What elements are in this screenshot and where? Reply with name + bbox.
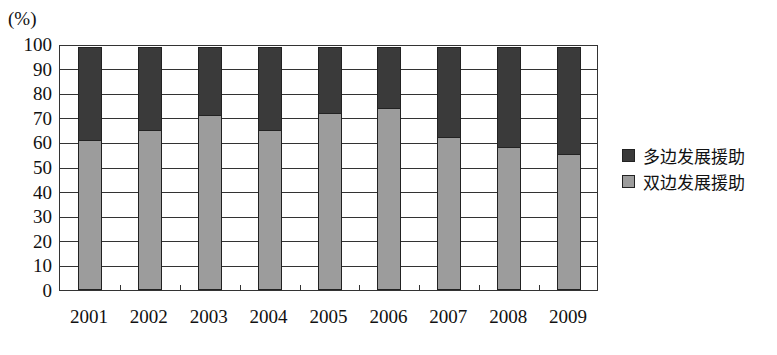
bar-segment-bilateral [139,130,161,289]
bar-2003 [198,47,222,290]
bar-2002 [138,47,162,290]
y-tick-label: 100 [0,35,52,55]
legend-item-multilateral: 多边发展援助 [622,142,745,168]
y-tick-label: 90 [0,60,52,80]
x-tick-mark [419,285,420,290]
legend: 多边发展援助 双边发展援助 [622,142,745,194]
x-tick-label: 2009 [538,306,598,328]
bar-segment-bilateral [378,108,400,289]
bar-segment-bilateral [259,130,281,289]
bar-2004 [258,47,282,290]
bar-segment-multilateral [498,48,520,147]
bar-segment-multilateral [319,48,341,113]
x-tick-label: 2006 [358,306,418,328]
x-tick-mark [539,285,540,290]
bar-segment-multilateral [378,48,400,108]
y-tick-label: 30 [0,207,52,227]
bar-2009 [557,47,581,290]
bar-segment-bilateral [319,113,341,289]
x-tick-label: 2004 [239,306,299,328]
stacked-bar-chart: (%) 0102030405060708090100 2001200220032… [0,0,777,355]
bar-segment-multilateral [438,48,460,137]
x-tick-mark [359,285,360,290]
y-tick-label: 80 [0,84,52,104]
bar-2007 [437,47,461,290]
bar-segment-multilateral [139,48,161,130]
x-tick-mark [300,285,301,290]
y-tick-label: 40 [0,183,52,203]
bar-2008 [497,47,521,290]
x-tick-label: 2007 [418,306,478,328]
x-tick-mark [180,285,181,290]
x-tick-mark [479,285,480,290]
x-tick-label: 2008 [478,306,538,328]
bar-segment-bilateral [558,154,580,289]
legend-label-bilateral: 双边发展援助 [643,169,745,194]
y-tick-label: 0 [0,281,52,301]
x-tick-label: 2001 [59,306,119,328]
bar-segment-multilateral [558,48,580,154]
bar-2006 [377,47,401,290]
x-tick-label: 2002 [119,306,179,328]
y-tick-label: 50 [0,158,52,178]
y-tick-label: 10 [0,256,52,276]
bar-segment-bilateral [199,115,221,289]
bar-2005 [318,47,342,290]
x-tick-mark [120,285,121,290]
legend-item-bilateral: 双边发展援助 [622,168,745,194]
x-tick-mark [240,285,241,290]
bar-segment-multilateral [259,48,281,130]
legend-swatch-multilateral [622,149,635,162]
y-axis-unit-label: (%) [8,8,36,30]
bar-segment-bilateral [498,147,520,289]
legend-label-multilateral: 多边发展援助 [643,143,745,168]
y-tick-label: 20 [0,232,52,252]
y-tick-label: 60 [0,133,52,153]
y-tick-label: 70 [0,109,52,129]
bar-segment-bilateral [438,137,460,289]
x-tick-label: 2003 [179,306,239,328]
bar-2001 [78,47,102,290]
bar-segment-bilateral [79,140,101,289]
plot-area [59,45,598,291]
bar-segment-multilateral [79,48,101,140]
bar-segment-multilateral [199,48,221,115]
x-tick-label: 2005 [299,306,359,328]
legend-swatch-bilateral [622,175,635,188]
